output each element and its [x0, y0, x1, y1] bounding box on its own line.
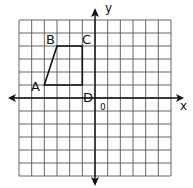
coordinate-plane: x y 0 A B C D	[0, 0, 193, 188]
x-axis-label: x	[180, 99, 187, 113]
y-axis-label: y	[105, 1, 112, 15]
vertex-label-a: A	[31, 79, 40, 94]
origin-label: 0	[100, 102, 106, 112]
trapezoid-abcd	[44, 46, 82, 85]
vertex-label-b: B	[46, 32, 55, 47]
vertex-label-d: D	[83, 90, 93, 105]
x-axis	[8, 94, 184, 102]
vertex-label-c: C	[82, 32, 91, 47]
